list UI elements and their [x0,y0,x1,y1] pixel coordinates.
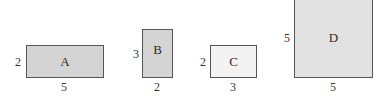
rectangle-d-width-label: 5 [330,81,336,93]
rectangle-b: B [142,29,173,78]
rectangle-c-width-label: 3 [230,81,236,93]
rectangle-c-height-label: 2 [200,56,206,68]
rectangle-a-width-label: 5 [61,81,67,93]
rectangle-b-label: B [153,42,162,58]
rectangle-c-label: C [229,54,238,70]
rectangle-d: D [294,0,373,78]
rectangle-d-label: D [329,30,338,46]
rectangle-a: A [26,45,104,78]
rectangle-b-height-label: 3 [133,48,139,60]
rectangle-b-width-label: 2 [154,81,160,93]
rectangle-a-label: A [60,54,69,70]
rectangle-a-height-label: 2 [15,56,21,68]
rectangle-c: C [210,45,257,78]
rectangle-d-height-label: 5 [284,32,290,44]
